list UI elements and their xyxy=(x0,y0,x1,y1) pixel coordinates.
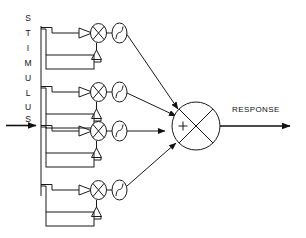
feedback-block-1 xyxy=(46,55,94,69)
channel-1 xyxy=(41,23,178,109)
stimulus-letter-7: U xyxy=(25,102,31,112)
multiplier-2 xyxy=(91,83,107,102)
feedback-block-3 xyxy=(46,153,94,167)
response-label: RESPONSE xyxy=(232,105,280,114)
stimulus-letter-1: S xyxy=(25,13,31,23)
channel-2 xyxy=(41,82,176,128)
feedback-block-2 xyxy=(46,114,94,128)
schematic-diagram: S T I M U L U S xyxy=(0,0,306,238)
stimulus-letter-5: U xyxy=(25,73,31,83)
multiplier-1 xyxy=(91,24,107,43)
stimulus-letter-4: M xyxy=(24,58,31,68)
channel-1-to-sum xyxy=(127,35,178,110)
multiplier-3 xyxy=(91,122,107,141)
multiplier-4 xyxy=(91,181,107,200)
channel-4-to-sum xyxy=(127,143,176,186)
channel-2-to-sum xyxy=(127,93,176,116)
stimulus-letter-8: S xyxy=(25,114,31,124)
sigmoid-1 xyxy=(112,23,127,43)
stimulus-letter-2: T xyxy=(25,28,30,38)
figure-canvas: S T I M U L U S xyxy=(0,0,306,238)
sigmoid-3 xyxy=(112,121,127,141)
stimulus-label: S T I M U L U S xyxy=(24,13,31,124)
summing-junction xyxy=(172,102,220,150)
stimulus-letter-3: I xyxy=(27,43,29,53)
feedback-block-4 xyxy=(46,212,94,226)
sigmoid-4 xyxy=(112,180,127,200)
sigmoid-2 xyxy=(112,82,127,102)
stimulus-letter-6: L xyxy=(26,88,31,98)
